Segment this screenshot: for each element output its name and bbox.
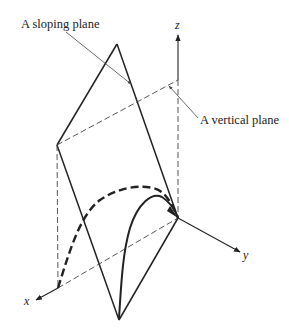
sloping-plane-edge-bottom-left <box>57 145 119 320</box>
vertical-plane-bottom-edge <box>58 218 178 288</box>
z-axis-label: z <box>174 18 180 32</box>
vertical-plane-top-edge <box>57 80 178 145</box>
y-axis <box>178 218 240 252</box>
sloping-plane-edge-top-right <box>117 44 178 218</box>
vertical-plane-label: A vertical plane <box>200 113 280 127</box>
solid-curve <box>119 196 178 318</box>
vertical-plane-left-edge <box>57 145 58 288</box>
y-axis-label: y <box>242 248 249 262</box>
diagram-canvas: A sloping plane A vertical plane z x y <box>0 0 289 336</box>
sloping-plane-label: A sloping plane <box>21 17 100 31</box>
sloping-plane-edge-top-left <box>57 44 117 145</box>
vertical-plane <box>57 80 178 288</box>
x-axis-label: x <box>23 294 30 308</box>
vertical-plane-pointer <box>169 86 198 118</box>
sloping-plane <box>57 44 178 320</box>
dashed-curve <box>58 187 178 288</box>
x-axis <box>36 288 58 300</box>
